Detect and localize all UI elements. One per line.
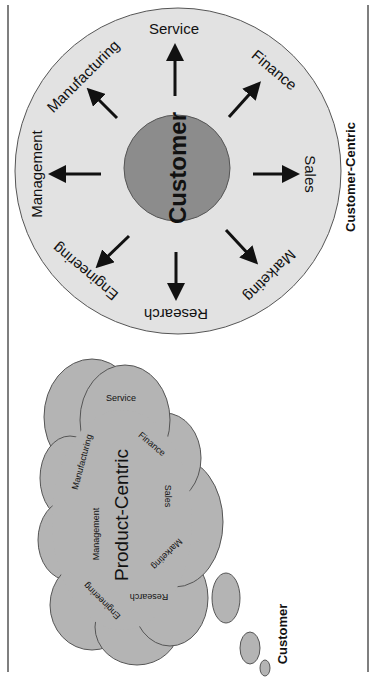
label-management: Management	[28, 129, 45, 217]
thought-bubbles	[212, 573, 270, 676]
thought-owner-label: Customer	[275, 604, 290, 665]
label-service: Service	[149, 20, 199, 37]
label-research: Research	[144, 306, 208, 323]
customer-core-label: Customer	[164, 112, 191, 224]
label-sales: Sales	[302, 155, 319, 193]
customer-centric-diagram: Customer Service Finance Sales Marketing…	[15, 8, 358, 334]
pc-label-management: Management	[91, 507, 101, 560]
product-centric-diagram: Product-Centric Service Finance Sales Ma…	[38, 359, 290, 676]
customer-centric-title: Customer-Centric	[343, 122, 358, 232]
pc-label-service: Service	[106, 393, 136, 403]
pc-label-research: Research	[130, 592, 169, 602]
product-centric-title: Product-Centric	[111, 449, 132, 581]
pc-label-sales: Sales	[163, 485, 173, 508]
diagram-canvas: Customer Service Finance Sales Marketing…	[0, 0, 381, 700]
